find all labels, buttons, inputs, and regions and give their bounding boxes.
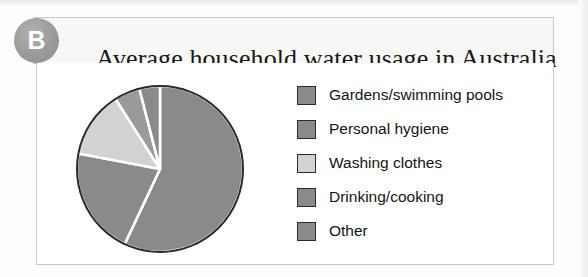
legend-swatch xyxy=(297,120,316,139)
figure-badge-letter: B xyxy=(14,18,59,63)
legend-item[interactable]: Drinking/cooking xyxy=(297,180,547,214)
legend-item-label: Personal hygiene xyxy=(329,120,449,138)
legend-swatch xyxy=(297,154,316,173)
legend-item[interactable]: Washing clothes xyxy=(297,146,547,180)
legend-swatch xyxy=(297,86,316,105)
scan-edge-right xyxy=(578,0,588,277)
legend-item-label: Other xyxy=(329,222,368,240)
legend-item-label: Gardens/swimming pools xyxy=(329,86,503,104)
legend-item[interactable]: Other xyxy=(297,214,547,248)
figure-badge: B xyxy=(14,18,59,63)
chart-legend: Gardens/swimming pools Personal hygiene … xyxy=(297,78,547,248)
pie-chart-svg xyxy=(70,79,250,259)
legend-swatch xyxy=(297,188,316,207)
legend-item[interactable]: Gardens/swimming pools xyxy=(297,78,547,112)
legend-item-label: Drinking/cooking xyxy=(329,188,444,206)
pie-chart xyxy=(70,79,250,259)
figure-title-bar: Average household water usage in Austral… xyxy=(33,17,554,64)
figure-panel: Average household water usage in Austral… xyxy=(0,0,588,277)
scan-edge-top xyxy=(0,0,588,8)
legend-item-label: Washing clothes xyxy=(329,154,442,172)
legend-swatch xyxy=(297,222,316,241)
legend-item[interactable]: Personal hygiene xyxy=(297,112,547,146)
